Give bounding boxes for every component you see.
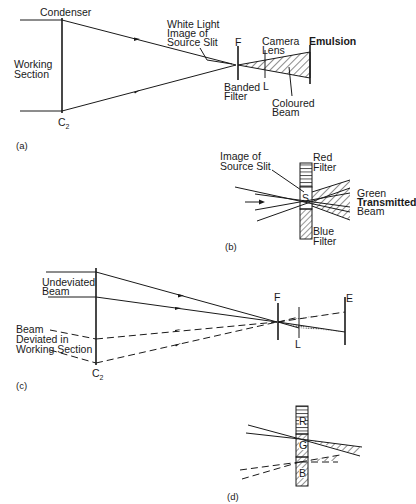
arrow-icon bbox=[175, 343, 181, 347]
undeviated-ray bbox=[96, 297, 277, 322]
label-beam: Beam bbox=[42, 285, 70, 297]
panel-d: R G B (d) bbox=[227, 406, 362, 502]
label-blue-filter: Filter bbox=[313, 235, 337, 247]
label-condenser: Condenser bbox=[40, 6, 92, 18]
label-l: L bbox=[263, 80, 269, 92]
red-filter bbox=[300, 163, 312, 187]
caption-b: (b) bbox=[225, 241, 237, 252]
undeviated-ray bbox=[96, 272, 277, 322]
schlieren-diagram: Condenser Working Section C2 White Light… bbox=[0, 0, 416, 504]
caption-c: (c) bbox=[16, 380, 27, 391]
label-s: S bbox=[302, 192, 309, 204]
arrow-icon bbox=[178, 294, 184, 298]
leader-slit bbox=[200, 48, 232, 64]
deviated-ray bbox=[96, 322, 277, 363]
label-e: E bbox=[346, 292, 353, 304]
label-source-slit: Source Slit bbox=[220, 160, 271, 172]
label-l: L bbox=[295, 338, 301, 350]
label-lens: Lens bbox=[262, 44, 285, 56]
blue-filter bbox=[300, 209, 312, 239]
label-c2: C2 bbox=[92, 367, 104, 381]
label-beam: Beam bbox=[272, 106, 300, 118]
label-r: R bbox=[299, 415, 307, 427]
label-f: F bbox=[274, 291, 280, 303]
panel-b: S Image of Source Slit Red Filter Green … bbox=[220, 150, 416, 252]
label-source-slit: Source Slit bbox=[167, 36, 218, 48]
label-red-filter: Filter bbox=[313, 161, 337, 173]
ray-bottom-a bbox=[62, 65, 236, 111]
panel-c: Undeviated Beam Beam Deviated in Working… bbox=[16, 268, 353, 391]
label-emulsion: Emulsion bbox=[309, 35, 356, 47]
caption-a: (a) bbox=[16, 140, 28, 151]
arrow-icon bbox=[134, 38, 140, 42]
deviated-ray bbox=[96, 322, 277, 339]
green-transmitted-beam bbox=[308, 440, 360, 455]
arrow-icon bbox=[134, 90, 140, 94]
panel-a: Condenser Working Section C2 White Light… bbox=[14, 6, 356, 151]
label-section: Section bbox=[14, 68, 49, 80]
label-beam: Beam bbox=[357, 205, 385, 217]
label-filter: Filter bbox=[224, 90, 248, 102]
label-c2: C2 bbox=[58, 116, 70, 130]
label-working-section: Working Section bbox=[16, 343, 92, 355]
caption-d: (d) bbox=[227, 491, 239, 502]
label-f: F bbox=[235, 36, 241, 48]
label-b: B bbox=[299, 467, 306, 479]
